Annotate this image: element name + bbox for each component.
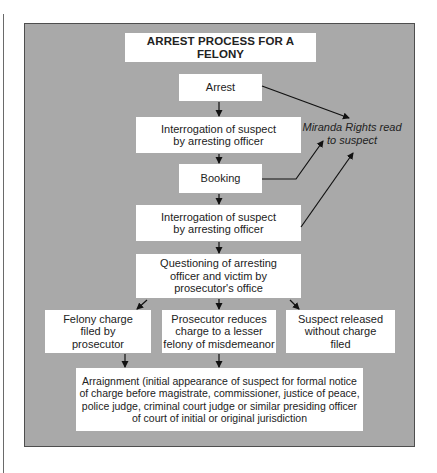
left-margin-rule bbox=[3, 14, 4, 473]
node-interrogation-2: Interrogation of suspect by arresting of… bbox=[136, 205, 301, 241]
node-suspect-released: Suspect released without charge filed bbox=[286, 310, 395, 353]
node-arraignment: Arraignment (initial appearance of suspe… bbox=[76, 368, 363, 431]
node-reduced-charge: Prosecutor reduces charge to a lesser fe… bbox=[162, 310, 276, 353]
node-arrest: Arrest bbox=[179, 74, 262, 101]
node-interrogation-1: Interrogation of suspect by arresting of… bbox=[136, 117, 301, 153]
diagram-title: ARREST PROCESS FOR A FELONY bbox=[125, 33, 316, 62]
node-felony-charge: Felony charge filed by prosecutor bbox=[45, 310, 151, 353]
node-booking: Booking bbox=[179, 164, 262, 193]
node-questioning: Questioning of arresting officer and vic… bbox=[136, 254, 301, 298]
miranda-rights-annotation: Miranda Rights read to suspect bbox=[300, 121, 404, 147]
